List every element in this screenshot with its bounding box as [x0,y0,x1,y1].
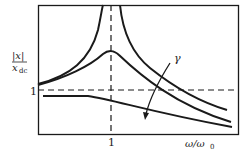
x-tick-label: 1 [108,136,115,149]
arrowhead-icon [143,112,149,120]
y-label-subscript: dc [19,67,27,75]
x-label: ω/ω [185,138,205,149]
gamma-label: γ [174,52,181,65]
curve-undamped [38,5,103,84]
y-tick-label: 1 [30,85,37,98]
gamma-arrow [146,63,170,114]
x-label-subscript: 0 [210,143,214,151]
curve-light-damping [38,51,231,122]
frequency-response-plot: γ |x| x dc 1 1 ω/ω 0 [0,0,249,155]
y-label-numerator: |x| [12,50,24,62]
y-label-denominator: x [12,62,18,73]
